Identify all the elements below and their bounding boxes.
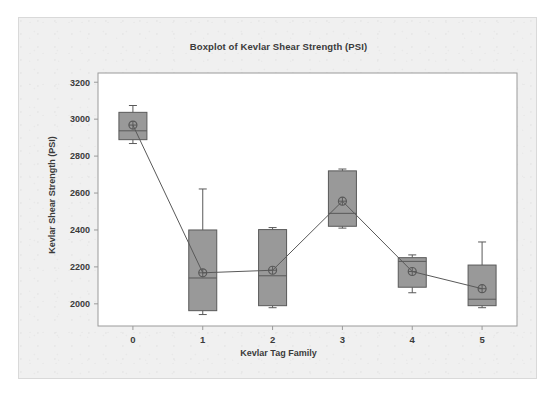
x-tick-label: 1 (200, 334, 206, 345)
figure-panel: Boxplot of Kevlar Shear Strength (PSI) K… (18, 17, 537, 379)
y-tick-label: 2400 (70, 225, 90, 235)
x-tick-label: 0 (130, 334, 135, 345)
y-tick-label: 2600 (70, 188, 90, 198)
page-canvas: Boxplot of Kevlar Shear Strength (PSI) K… (0, 0, 555, 395)
x-tick-label: 3 (340, 334, 345, 345)
y-axis-ticks: 2000220024002600280030003200 (70, 78, 98, 310)
mean-marker (478, 285, 486, 293)
mean-marker (129, 121, 137, 129)
mean-marker (338, 197, 346, 205)
plot-frame (98, 73, 517, 326)
x-tick-label: 4 (410, 334, 416, 345)
y-tick-label: 3200 (70, 78, 90, 88)
mean-marker (199, 269, 207, 277)
mean-marker (269, 266, 277, 274)
y-tick-label: 2800 (70, 151, 90, 161)
x-tick-label: 5 (479, 334, 485, 345)
x-tick-label: 2 (270, 334, 275, 345)
x-axis-ticks: 012345 (130, 326, 485, 345)
boxplot-svg: 2000220024002600280030003200 012345 (19, 18, 538, 380)
plot-area-frame (98, 73, 517, 326)
y-tick-label: 2000 (70, 299, 90, 309)
y-tick-label: 2200 (70, 262, 90, 272)
y-tick-label: 3000 (70, 114, 90, 124)
mean-marker (408, 268, 416, 276)
